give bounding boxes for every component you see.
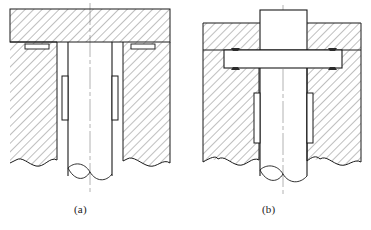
bushing-left-b: [254, 93, 260, 143]
shaft-boss-top-b: [260, 10, 307, 50]
flange-plate-b: [224, 50, 342, 68]
bushing-right-a: [112, 76, 118, 120]
housing-upper-right-b: [307, 23, 361, 50]
housing-upper-left-b: [203, 23, 260, 50]
housing-lower-right-b: [307, 68, 361, 168]
groove-slot-left-a: [25, 44, 49, 49]
housing-left-a: [10, 42, 57, 167]
technical-drawing: [0, 0, 371, 230]
caption-a: (a): [74, 203, 87, 215]
housing-mid-left-b: [203, 50, 224, 68]
groove-slot-right-a: [131, 44, 155, 49]
caption-b: (b): [262, 203, 275, 215]
bushing-right-b: [307, 93, 313, 143]
shaft-a: [68, 42, 112, 175]
housing-mid-right-b: [342, 50, 361, 68]
view-b: [203, 5, 361, 195]
upper-plate-a: [10, 9, 170, 42]
housing-right-a: [123, 42, 170, 167]
bushing-left-a: [62, 76, 68, 120]
shaft-break-ellipse-b: [260, 166, 307, 182]
view-a: [10, 3, 170, 195]
housing-lower-left-b: [203, 68, 260, 168]
shaft-b: [260, 68, 307, 176]
figure-root: (a) (b): [0, 0, 371, 230]
